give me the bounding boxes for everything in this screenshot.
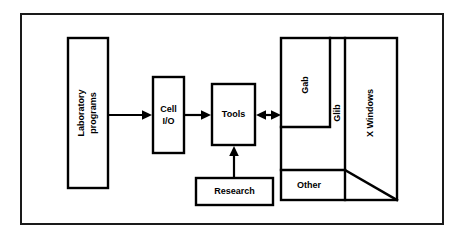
- graphics-stack-group: Gab Glib X Windows Other: [281, 38, 397, 200]
- laboratory-programs-label-line2: programs: [88, 92, 98, 134]
- glib-label: Glib: [332, 104, 342, 122]
- cell-io-label-line1: Cell: [160, 104, 177, 114]
- research-label: Research: [214, 186, 255, 196]
- laboratory-programs-label-line1: Laboratory: [76, 89, 86, 136]
- diagram-root: Laboratory programs Cell I/O Tools: [0, 0, 468, 236]
- cell-io-label-line2: I/O: [162, 116, 174, 126]
- tools-label: Tools: [222, 109, 245, 119]
- other-label: Other: [297, 180, 322, 190]
- cell-io-rect: [153, 77, 184, 153]
- block-diagram-canvas: Laboratory programs Cell I/O Tools: [0, 0, 468, 236]
- gab-label: Gab: [300, 76, 310, 94]
- node-tools[interactable]: Tools: [212, 84, 255, 145]
- node-research[interactable]: Research: [196, 178, 273, 205]
- node-laboratory-programs[interactable]: Laboratory programs: [68, 38, 108, 188]
- node-cell-io[interactable]: Cell I/O: [153, 77, 184, 153]
- node-x-windows[interactable]: X Windows: [365, 89, 375, 137]
- x-windows-label: X Windows: [365, 89, 375, 137]
